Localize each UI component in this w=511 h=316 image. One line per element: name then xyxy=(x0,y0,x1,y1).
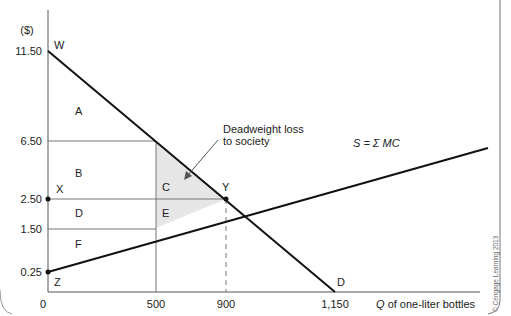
label-x: X xyxy=(56,183,64,195)
x-axis-q: Q xyxy=(376,298,385,310)
supply-label: S = Σ MC xyxy=(353,137,400,149)
x-tick-1150: 1,150 xyxy=(321,298,349,310)
y-tick-1150: 11.50 xyxy=(15,45,42,57)
region-e: E xyxy=(162,207,169,219)
y-tick-150: 1.50 xyxy=(21,223,42,235)
point-z xyxy=(46,270,51,275)
region-c: C xyxy=(162,181,170,193)
x-axis-text: of one-liter bottles xyxy=(388,298,476,310)
region-a: A xyxy=(75,105,83,117)
y-tick-025: 0.25 xyxy=(21,266,42,278)
region-b: B xyxy=(75,167,82,179)
point-x xyxy=(46,197,51,202)
region-f: F xyxy=(75,238,82,250)
point-y xyxy=(224,197,229,202)
region-d: D xyxy=(75,207,83,219)
y-tick-650: 6.50 xyxy=(21,135,42,147)
label-d: D xyxy=(337,276,345,288)
dwl-arrow xyxy=(188,140,218,175)
dwl-label-line1: Deadweight loss xyxy=(223,123,304,135)
x-axis-title: Q of one-liter bottles xyxy=(376,298,476,310)
copyright-credit: © Cengage Learning 2013 xyxy=(492,236,499,312)
label-y: Y xyxy=(222,181,230,193)
x-tick-500: 500 xyxy=(147,298,165,310)
x-tick-900: 900 xyxy=(217,298,235,310)
label-z: Z xyxy=(54,276,61,288)
chart: ($) 11.50 6.50 2.50 1.50 0.25 0 500 900 … xyxy=(0,0,511,316)
dwl-label-line2: to society xyxy=(223,135,270,147)
label-w: W xyxy=(54,39,65,51)
frame-border-left xyxy=(0,290,12,314)
y-tick-250: 2.50 xyxy=(21,193,42,205)
x-tick-0: 0 xyxy=(40,298,46,310)
y-unit-label: ($) xyxy=(20,24,33,36)
supply-curve xyxy=(48,148,488,272)
